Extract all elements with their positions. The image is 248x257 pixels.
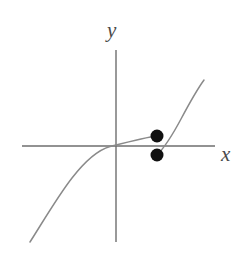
lower-endpoint-dot	[151, 149, 164, 162]
function-graph-figure: y x	[0, 0, 248, 257]
curve-left-branch	[30, 136, 157, 242]
plot-canvas	[0, 0, 248, 257]
curve-right-branch	[157, 80, 204, 155]
x-axis-label: x	[221, 144, 230, 165]
upper-endpoint-dot	[151, 130, 164, 143]
y-axis-label: y	[107, 20, 116, 41]
